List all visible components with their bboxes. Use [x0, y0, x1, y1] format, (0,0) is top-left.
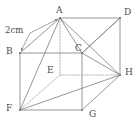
vertex-dot-g: [81, 109, 83, 111]
vertex-dot-f: [19, 109, 21, 111]
vertex-label-h: H: [125, 68, 133, 77]
vertex-label-f: F: [6, 104, 12, 113]
leader-line-0: [30, 19, 58, 33]
dimension-label-2cm: 2cm: [5, 26, 23, 35]
vertex-dot-d: [119, 17, 121, 19]
vertex-label-g: G: [89, 110, 96, 119]
vertex-label-b: B: [6, 47, 13, 56]
diagonal-dc: [82, 18, 120, 53]
edge-ef: [20, 75, 60, 110]
diagonal-ch: [82, 53, 120, 75]
vertex-dot-a: [59, 17, 61, 19]
edge-gh: [82, 75, 120, 110]
vertex-dot-h: [119, 74, 121, 76]
cuboid-diagonals: [20, 18, 120, 110]
cuboid-drawing: [0, 0, 140, 126]
edge-ab: [20, 18, 60, 53]
vertex-label-a: A: [56, 6, 63, 15]
vertex-label-e: E: [47, 66, 54, 75]
vertex-dot-b: [19, 52, 21, 54]
vertex-label-d: D: [124, 8, 131, 17]
diagonal-af: [20, 18, 60, 110]
diagonal-fh: [20, 75, 120, 110]
geometry-figure: 2cm A B C D E F G H: [0, 0, 140, 126]
vertex-label-c: C: [75, 44, 82, 53]
